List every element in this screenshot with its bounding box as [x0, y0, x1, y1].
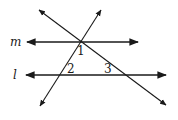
line-label-m: m [10, 35, 21, 49]
line-label-l: l [13, 68, 17, 82]
angle-label-1: 1 [77, 44, 85, 58]
transversal-b [39, 10, 166, 105]
parallel-lines-diagram: m l 1 2 3 [0, 0, 178, 120]
angle-label-3: 3 [104, 62, 112, 76]
transversal-a [40, 10, 101, 106]
angle-label-2: 2 [67, 62, 75, 76]
